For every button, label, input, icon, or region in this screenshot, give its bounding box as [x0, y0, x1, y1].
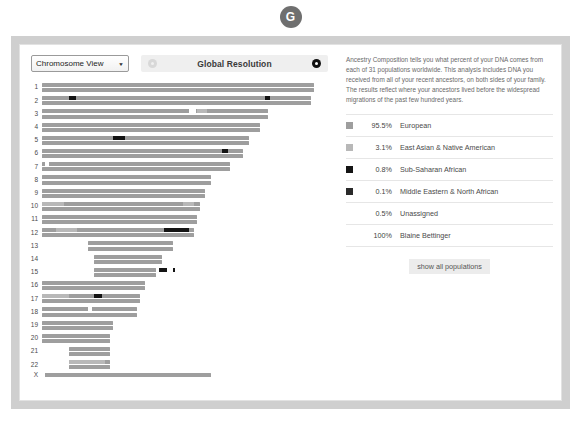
- legend-row[interactable]: 0.1%Middle Eastern & North African: [346, 180, 553, 202]
- chromosome-copy-bar: [42, 194, 205, 198]
- chromosome-row[interactable]: 15: [20, 268, 340, 277]
- legend-color-swatch: [346, 188, 353, 195]
- chromosome-label: 4: [20, 124, 42, 131]
- chromosome-row[interactable]: 1: [20, 83, 340, 92]
- chromosome-label: 10: [20, 203, 42, 210]
- chromosome-row[interactable]: 12: [20, 228, 340, 237]
- chromosome-row[interactable]: 22: [20, 360, 340, 369]
- chromosome-row[interactable]: 21: [20, 347, 340, 356]
- legend-population-name: Middle Eastern & North African: [400, 187, 553, 196]
- ancestry-legend-column: Ancestry Composition tells you what perc…: [346, 55, 553, 396]
- chromosome-row[interactable]: 11: [20, 215, 340, 224]
- resolution-bar: Global Resolution: [141, 55, 328, 72]
- zoom-out-icon[interactable]: [148, 59, 157, 68]
- chromosome-copy-bar: [42, 167, 230, 171]
- chromosome-bars: [42, 109, 340, 118]
- chromosome-row[interactable]: 9: [20, 189, 340, 198]
- chromosome-bars: [42, 360, 340, 369]
- chromosome-row[interactable]: 7: [20, 162, 340, 171]
- chromosome-copy-bar: [42, 88, 314, 92]
- chromosome-bars: [42, 373, 340, 377]
- chromosome-label: 6: [20, 150, 42, 157]
- chromosome-copy-bar: [42, 128, 260, 132]
- ancestry-segment: [113, 136, 125, 140]
- chromosome-copy-bar: [42, 123, 260, 127]
- chromosome-row[interactable]: 13: [20, 241, 340, 250]
- chromosome-view-column: Chromosome View ▼ Global Resolution 1234…: [20, 45, 340, 400]
- top-badge-row: G: [0, 0, 581, 34]
- chromosome-label: 22: [20, 362, 42, 369]
- ancestry-segment: [69, 96, 76, 100]
- chromosome-label: 5: [20, 137, 42, 144]
- chromosome-row[interactable]: 16: [20, 281, 340, 290]
- chromosome-bars: [42, 175, 340, 184]
- zoom-in-icon[interactable]: [312, 59, 321, 68]
- chromosome-row[interactable]: 2: [20, 96, 340, 105]
- chromosome-label: 15: [20, 269, 42, 276]
- chromosome-copy-bar: [42, 215, 197, 219]
- chromosome-row[interactable]: 5: [20, 136, 340, 145]
- ancestry-segment: [265, 96, 270, 100]
- chromosome-copy-bar: [42, 220, 197, 224]
- chromosome-label: 16: [20, 282, 42, 289]
- legend-row[interactable]: 0.8%Sub-Saharan African: [346, 158, 553, 180]
- legend-list: 95.5%European3.1%East Asian & Native Ame…: [346, 114, 553, 247]
- legend-swatch-cell: [346, 188, 362, 195]
- chromosome-row[interactable]: 18: [20, 307, 340, 316]
- legend-color-swatch: [346, 166, 353, 173]
- chromosome-row[interactable]: 20: [20, 334, 340, 343]
- chromosome-bars: [42, 255, 340, 264]
- chromosome-copy-bar: [42, 202, 200, 206]
- chromosome-label: 12: [20, 230, 42, 237]
- show-all-wrap: show all populations: [346, 259, 553, 274]
- chromosome-bars: [42, 307, 340, 316]
- chromosome-row[interactable]: 8: [20, 175, 340, 184]
- chromosome-copy-bar: [88, 241, 172, 245]
- chromosome-label: 18: [20, 309, 42, 316]
- chromosome-bars: [42, 241, 340, 250]
- chromosome-bars: [42, 281, 340, 290]
- ancestry-segment: [42, 202, 64, 206]
- view-select[interactable]: Chromosome View ▼: [31, 55, 129, 72]
- legend-swatch-cell: [346, 122, 362, 129]
- chromosome-row[interactable]: 4: [20, 123, 340, 132]
- chromosome-label: 21: [20, 348, 42, 355]
- ancestry-segment: [45, 162, 49, 166]
- chromosome-copy-bar: [42, 101, 311, 105]
- chromosome-label: 2: [20, 98, 42, 105]
- chromosome-row[interactable]: 3: [20, 109, 340, 118]
- chromosome-bars: [42, 123, 340, 132]
- chromosome-ideogram: 12345678910111213141516171819202122X: [20, 83, 340, 396]
- chromosome-copy-bar: [69, 347, 110, 351]
- legend-row[interactable]: 3.1%East Asian & Native American: [346, 136, 553, 158]
- chromosome-row[interactable]: 10: [20, 202, 340, 211]
- legend-swatch-cell: [346, 144, 362, 151]
- chromosome-copy-bar: [42, 313, 137, 317]
- chromosome-copy-bar: [69, 365, 110, 369]
- chromosome-copy-bar: [42, 334, 110, 338]
- legend-population-name: Unassigned: [400, 209, 553, 218]
- chromosome-copy-bar: [42, 299, 140, 303]
- chromosome-label: 14: [20, 256, 42, 263]
- chromosome-bars: [42, 162, 340, 171]
- legend-row[interactable]: 95.5%European: [346, 114, 553, 136]
- chromosome-label: 17: [20, 296, 42, 303]
- ancestry-segment: [69, 360, 104, 364]
- ancestry-segment: [173, 268, 176, 272]
- legend-row[interactable]: 100%Blaine Bettinger: [346, 224, 553, 247]
- ancestry-segment: [197, 109, 207, 113]
- ancestry-segment: [159, 268, 167, 272]
- chromosome-row[interactable]: 6: [20, 149, 340, 158]
- chromosome-copy-bar: [42, 373, 211, 377]
- chromosome-row[interactable]: 14: [20, 255, 340, 264]
- chromosome-row[interactable]: 19: [20, 321, 340, 330]
- chromosome-row[interactable]: 17: [20, 294, 340, 303]
- chromosome-bars: [42, 149, 340, 158]
- chromosome-label: 7: [20, 164, 42, 171]
- legend-population-name: East Asian & Native American: [400, 143, 553, 152]
- show-all-populations-button[interactable]: show all populations: [409, 259, 490, 274]
- app-frame: Chromosome View ▼ Global Resolution 1234…: [11, 36, 570, 409]
- chromosome-row[interactable]: X: [20, 373, 340, 377]
- chromosome-label: 9: [20, 190, 42, 197]
- legend-row[interactable]: 0.5%Unassigned: [346, 202, 553, 224]
